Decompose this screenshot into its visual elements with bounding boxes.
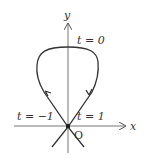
- annotation-t0: t = 0: [77, 35, 105, 46]
- y-axis-label: y: [64, 10, 70, 21]
- x-axis-label: x: [130, 121, 136, 132]
- origin-label: O: [74, 130, 83, 141]
- annotation-t-neg1: t = −1: [17, 111, 54, 122]
- parametric-curve-diagram: y x O t = 0 t = −1 t = 1: [0, 0, 149, 159]
- annotation-t1: t = 1: [77, 111, 105, 122]
- origin-point: [66, 124, 70, 128]
